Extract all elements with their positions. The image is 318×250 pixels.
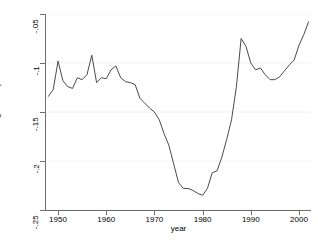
series-line: [48, 22, 308, 195]
y-tick-label-text: -.1: [32, 66, 41, 75]
x-tick-label: 1990: [231, 215, 271, 224]
y-tick-label-text: -.05: [32, 19, 41, 33]
x-tick-label: 1980: [183, 215, 223, 224]
x-tick-label: 1960: [86, 215, 126, 224]
x-tick-label: 1950: [38, 215, 78, 224]
y-tick-label: -.1: [0, 57, 38, 69]
y-tick-label: -.25: [0, 204, 38, 216]
x-tick-label: 1970: [134, 215, 174, 224]
plot-area: [46, 14, 311, 210]
y-tick-label-text: -.2: [32, 164, 41, 173]
x-tick-label: 2000: [279, 215, 318, 224]
y-tick-label: -.05: [0, 8, 38, 20]
y-tick-label: -.15: [0, 106, 38, 118]
chart-figure: Predicted cointegrated equation -.05-.1-…: [0, 0, 318, 250]
y-tick-label: -.2: [0, 155, 38, 167]
x-axis-line: [45, 210, 311, 211]
x-axis-title: year: [46, 224, 311, 233]
y-tick-label-text: -.15: [32, 117, 41, 131]
data-line-series: [46, 14, 311, 210]
